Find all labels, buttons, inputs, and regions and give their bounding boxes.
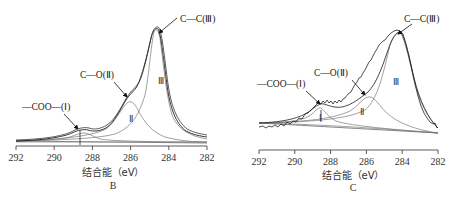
annotation-coo: —COO—(Ⅰ) <box>21 102 70 113</box>
peak-component-2 <box>259 97 438 133</box>
peak-label-3: Ⅲ <box>393 77 399 87</box>
annotation-arrow <box>306 91 320 104</box>
x-ticks <box>259 150 438 154</box>
x-axis-label: 结合能（eV） <box>82 166 145 178</box>
annotation-arrow <box>159 18 177 33</box>
annotation-arrow <box>352 80 365 95</box>
tick-label: 286 <box>123 152 138 163</box>
annotation-arrow <box>398 24 412 34</box>
chart-panel-b: 292 290 288 286 284 282 结合能（eV） B —COO—(… <box>9 14 216 191</box>
x-ticks <box>16 146 207 150</box>
chart-panel-c: 292 290 288 286 284 282 结合能（eV） C —COO—(… <box>252 14 446 193</box>
annotation-cc: C—C(Ⅲ) <box>180 14 216 25</box>
tick-label: 290 <box>287 156 302 167</box>
annotation-cc: C—C(Ⅲ) <box>404 14 440 25</box>
tick-label: 286 <box>359 156 374 167</box>
tick-label: 292 <box>252 156 267 167</box>
tick-label: 282 <box>431 156 446 167</box>
peak-label-3: Ⅲ <box>158 76 164 86</box>
panel-letter: C <box>350 182 357 193</box>
baseline <box>259 123 438 133</box>
annotation-co: C—O(Ⅱ) <box>314 68 348 79</box>
peak-label-1: Ⅰ <box>319 113 322 123</box>
peak-component-3 <box>16 30 207 141</box>
tick-label: 284 <box>395 156 410 167</box>
tick-label: 288 <box>323 156 338 167</box>
peak-component-1 <box>16 133 207 142</box>
tick-label: 292 <box>9 152 24 163</box>
peak-label-2: Ⅱ <box>129 114 133 124</box>
annotation-arrow <box>114 82 127 97</box>
tick-label: 288 <box>85 152 100 163</box>
tick-label: 290 <box>47 152 62 163</box>
tick-label: 282 <box>200 152 215 163</box>
annotation-co: C—O(Ⅱ) <box>80 70 114 81</box>
peak-label-2: Ⅱ <box>360 107 364 117</box>
panel-letter: B <box>110 180 117 191</box>
annotation-coo: —COO—(Ⅰ) <box>256 79 305 90</box>
tick-label: 284 <box>161 152 176 163</box>
xps-figure: 292 290 288 286 284 282 结合能（eV） B —COO—(… <box>0 0 454 197</box>
annotation-arrow <box>64 114 78 129</box>
x-axis-label: 结合能（eV） <box>322 169 385 181</box>
